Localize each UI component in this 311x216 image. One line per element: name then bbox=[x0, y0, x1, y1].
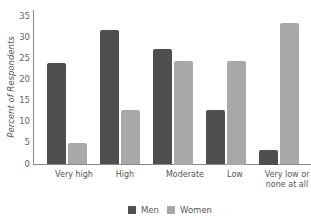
category-label-line1: Very low or bbox=[252, 170, 311, 180]
category-label-very-low: Very low or none at all bbox=[252, 170, 311, 190]
legend-label-women: Women bbox=[180, 205, 212, 215]
bar-women bbox=[227, 61, 246, 164]
bar-women bbox=[280, 23, 299, 164]
bar-men bbox=[153, 49, 172, 165]
y-tick-label: 35 bbox=[14, 11, 30, 21]
bar-women bbox=[174, 61, 193, 164]
bar-men bbox=[100, 30, 119, 165]
bar-men bbox=[206, 110, 225, 165]
category-label-line2: none at all bbox=[252, 180, 311, 190]
y-tick-label: 30 bbox=[14, 32, 30, 42]
y-axis-line bbox=[33, 10, 34, 165]
y-tick-label: 20 bbox=[14, 74, 30, 84]
bar-women bbox=[68, 143, 87, 164]
y-tick-label: 10 bbox=[14, 116, 30, 126]
category-label-very-high: Very high bbox=[44, 170, 104, 180]
legend-label-men: Men bbox=[141, 205, 159, 215]
bar-men bbox=[47, 63, 66, 164]
y-tick-label: 25 bbox=[14, 53, 30, 63]
legend-item-men: Men bbox=[128, 205, 159, 215]
bar-women bbox=[121, 110, 140, 165]
legend-swatch-men bbox=[128, 206, 136, 214]
bar-chart: Percent of Respondents 05101520253035 Ve… bbox=[0, 0, 311, 216]
legend-swatch-women bbox=[167, 206, 175, 214]
y-tick-label: 5 bbox=[14, 137, 30, 147]
y-tick-label: 0 bbox=[14, 159, 30, 169]
category-label-high: High bbox=[100, 170, 150, 180]
y-tick-label: 15 bbox=[14, 95, 30, 105]
bar-men bbox=[259, 150, 278, 165]
legend-item-women: Women bbox=[167, 205, 212, 215]
